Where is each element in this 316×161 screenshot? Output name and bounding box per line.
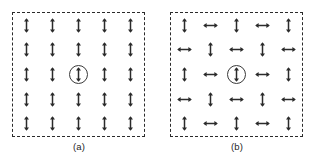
vertical-double-arrow-icon <box>74 18 83 33</box>
figure-container: (a) (b) <box>0 0 316 161</box>
vertical-double-arrow-icon <box>48 67 57 82</box>
vertical-double-arrow-icon <box>48 18 57 33</box>
lattice-site <box>250 38 276 63</box>
lattice-site <box>197 13 223 38</box>
vertical-double-arrow-icon <box>74 116 83 131</box>
vertical-double-arrow-icon <box>22 67 31 82</box>
vertical-double-arrow-icon <box>48 42 57 57</box>
lattice-site <box>92 62 118 87</box>
lattice-site <box>223 13 249 38</box>
lattice-site <box>171 87 197 112</box>
vertical-double-arrow-icon <box>48 116 57 131</box>
lattice-site <box>13 13 39 38</box>
lattice-site <box>171 38 197 63</box>
lattice-box-a <box>12 12 145 137</box>
lattice-site <box>39 62 65 87</box>
lattice-site <box>65 87 91 112</box>
vertical-double-arrow-icon <box>232 18 241 33</box>
vertical-double-arrow-icon <box>100 67 109 82</box>
vertical-double-arrow-icon <box>232 116 241 131</box>
vertical-double-arrow-icon <box>180 18 189 33</box>
vertical-double-arrow-icon <box>284 67 293 82</box>
lattice-site <box>65 38 91 63</box>
horizontal-double-arrow-icon <box>177 45 192 54</box>
lattice-site <box>223 87 249 112</box>
reference-site-circle-icon <box>69 65 88 84</box>
vertical-double-arrow-icon <box>100 18 109 33</box>
vertical-double-arrow-icon <box>206 92 215 107</box>
vertical-double-arrow-icon <box>180 67 189 82</box>
horizontal-double-arrow-icon <box>177 95 192 104</box>
vertical-double-arrow-icon <box>100 92 109 107</box>
lattice-site <box>13 111 39 136</box>
lattice-site <box>92 111 118 136</box>
lattice-site <box>118 13 144 38</box>
lattice-site <box>39 38 65 63</box>
lattice-site <box>250 13 276 38</box>
vertical-double-arrow-icon <box>100 42 109 57</box>
vertical-double-arrow-icon <box>22 18 31 33</box>
lattice-site <box>171 62 197 87</box>
vertical-double-arrow-icon <box>126 92 135 107</box>
panel-b: (b) <box>158 0 316 161</box>
lattice-site <box>39 111 65 136</box>
lattice-site <box>197 111 223 136</box>
panel-a-caption: (a) <box>0 141 158 152</box>
vertical-double-arrow-icon <box>284 116 293 131</box>
lattice-site <box>276 38 302 63</box>
panel-a: (a) <box>0 0 158 161</box>
lattice-site <box>197 62 223 87</box>
lattice-site <box>65 111 91 136</box>
lattice-site <box>118 38 144 63</box>
vertical-double-arrow-icon <box>206 42 215 57</box>
vertical-double-arrow-icon <box>74 42 83 57</box>
lattice-site <box>276 111 302 136</box>
horizontal-double-arrow-icon <box>255 119 270 128</box>
lattice-site <box>197 38 223 63</box>
lattice-site <box>276 87 302 112</box>
horizontal-double-arrow-icon <box>255 21 270 30</box>
vertical-double-arrow-icon <box>258 42 267 57</box>
vertical-double-arrow-icon <box>284 18 293 33</box>
lattice-grid-b <box>171 13 302 136</box>
horizontal-double-arrow-icon <box>203 70 218 79</box>
lattice-site <box>223 38 249 63</box>
lattice-site <box>171 111 197 136</box>
vertical-double-arrow-icon <box>22 42 31 57</box>
lattice-site <box>118 87 144 112</box>
lattice-site <box>276 13 302 38</box>
lattice-site <box>92 38 118 63</box>
horizontal-double-arrow-icon <box>203 119 218 128</box>
lattice-site <box>250 111 276 136</box>
vertical-double-arrow-icon <box>48 92 57 107</box>
horizontal-double-arrow-icon <box>203 21 218 30</box>
lattice-site <box>250 87 276 112</box>
lattice-site-marked <box>223 62 249 87</box>
lattice-grid-a <box>13 13 144 136</box>
lattice-box-b <box>170 12 303 137</box>
lattice-site <box>118 111 144 136</box>
vertical-double-arrow-icon <box>126 67 135 82</box>
horizontal-double-arrow-icon <box>229 95 244 104</box>
lattice-site <box>92 87 118 112</box>
vertical-double-arrow-icon <box>22 116 31 131</box>
lattice-site <box>197 87 223 112</box>
lattice-site <box>39 87 65 112</box>
horizontal-double-arrow-icon <box>229 45 244 54</box>
lattice-site <box>250 62 276 87</box>
lattice-site <box>92 13 118 38</box>
lattice-site <box>276 62 302 87</box>
vertical-double-arrow-icon <box>22 92 31 107</box>
lattice-site <box>39 13 65 38</box>
vertical-double-arrow-icon <box>258 92 267 107</box>
lattice-site <box>223 111 249 136</box>
vertical-double-arrow-icon <box>74 92 83 107</box>
lattice-site-marked <box>65 62 91 87</box>
reference-site-circle-icon <box>227 65 246 84</box>
lattice-site <box>65 13 91 38</box>
horizontal-double-arrow-icon <box>281 45 296 54</box>
horizontal-double-arrow-icon <box>281 95 296 104</box>
horizontal-double-arrow-icon <box>255 70 270 79</box>
lattice-site <box>171 13 197 38</box>
vertical-double-arrow-icon <box>126 42 135 57</box>
